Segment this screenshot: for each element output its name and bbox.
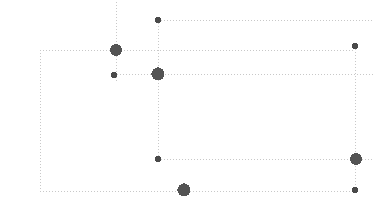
graph-node-n5[interactable] — [151, 67, 164, 80]
graph-node-n7[interactable] — [350, 153, 362, 165]
edges-layer — [40, 2, 373, 191]
graph-node-n4[interactable] — [111, 72, 117, 78]
diagram-canvas — [0, 0, 373, 212]
nodes-layer — [110, 17, 362, 197]
graph-node-n3[interactable] — [352, 43, 358, 49]
graph-node-n1[interactable] — [155, 17, 161, 23]
graph-node-n8[interactable] — [177, 183, 190, 196]
graph-node-n9[interactable] — [352, 187, 358, 193]
diagram-svg — [0, 0, 373, 212]
graph-node-n6[interactable] — [155, 156, 161, 162]
graph-node-n2[interactable] — [110, 44, 122, 56]
